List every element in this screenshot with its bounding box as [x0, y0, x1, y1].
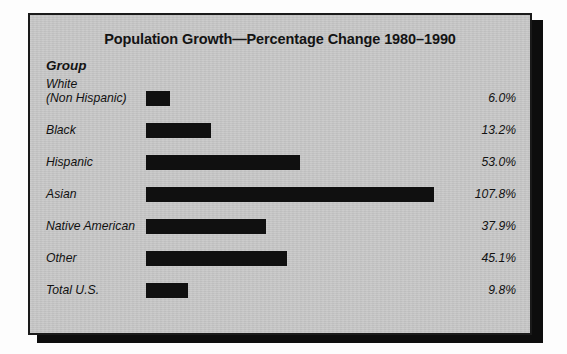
group-column-header: Group — [46, 58, 87, 73]
bar — [146, 283, 188, 298]
chart-panel: Population Growth—Percentage Change 1980… — [28, 13, 532, 335]
bar-row-label: Native American — [46, 219, 158, 233]
bar — [146, 91, 170, 106]
bar — [146, 155, 300, 170]
chart-title: Population Growth—Percentage Change 1980… — [30, 31, 530, 47]
bar-row-label: Hispanic — [46, 155, 158, 169]
bar-row: Total U.S.9.8% — [30, 275, 530, 307]
bar — [146, 123, 211, 138]
bar-value-label: 6.0% — [436, 91, 516, 106]
bar-row: Native American37.9% — [30, 211, 530, 243]
bar-track — [146, 219, 434, 234]
bar-row: Asian107.8% — [30, 179, 530, 211]
bar-track — [146, 155, 434, 170]
bar-value-label: 9.8% — [436, 283, 516, 298]
bar-value-label: 53.0% — [436, 155, 516, 170]
bar-value-label: 107.8% — [436, 187, 516, 202]
bar-row-label: Other — [46, 251, 158, 265]
bar-row-label: Asian — [46, 187, 158, 201]
bar-rows: White (Non Hispanic)6.0%Black13.2%Hispan… — [30, 83, 530, 307]
bar-track — [146, 251, 434, 266]
bar — [146, 251, 287, 266]
bar-value-label: 13.2% — [436, 123, 516, 138]
bar-row: Black13.2% — [30, 115, 530, 147]
bar — [146, 219, 266, 234]
scanned-page: Population Growth—Percentage Change 1980… — [0, 0, 567, 354]
bar-track — [146, 123, 434, 138]
bar-row-label: White (Non Hispanic) — [46, 77, 158, 105]
bar-row: Hispanic53.0% — [30, 147, 530, 179]
bar-row: White (Non Hispanic)6.0% — [30, 83, 530, 115]
bar — [146, 187, 434, 202]
bar-row-label: Black — [46, 123, 158, 137]
bar-value-label: 45.1% — [436, 251, 516, 266]
bar-track — [146, 187, 434, 202]
bar-track — [146, 283, 434, 298]
chart-panel-inner: Population Growth—Percentage Change 1980… — [30, 15, 530, 333]
bar-row: Other45.1% — [30, 243, 530, 275]
bar-track — [146, 91, 434, 106]
bar-row-label: Total U.S. — [46, 283, 158, 297]
bar-value-label: 37.9% — [436, 219, 516, 234]
